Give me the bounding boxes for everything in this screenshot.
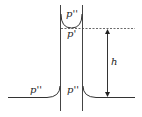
outer-surface-right xyxy=(83,86,135,98)
label-inside-top: p'' xyxy=(66,8,78,19)
arrow-up-head-icon xyxy=(105,29,110,34)
label-below-meniscus: p' xyxy=(67,28,76,39)
label-inside-bottom: p'' xyxy=(67,84,79,95)
label-outside-left: p'' xyxy=(30,84,42,95)
capillary-diagram: p'' p' h p'' p'' xyxy=(0,0,142,117)
label-height: h xyxy=(111,56,117,67)
arrow-down-head-icon xyxy=(105,92,110,97)
